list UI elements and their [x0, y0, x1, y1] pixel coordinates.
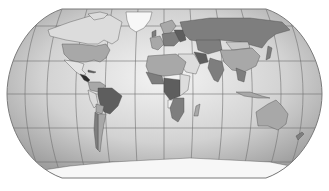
- region-north-africa: [146, 54, 186, 76]
- map-canvas: [0, 0, 329, 191]
- world-map: [0, 0, 329, 191]
- region-usa: [62, 44, 110, 62]
